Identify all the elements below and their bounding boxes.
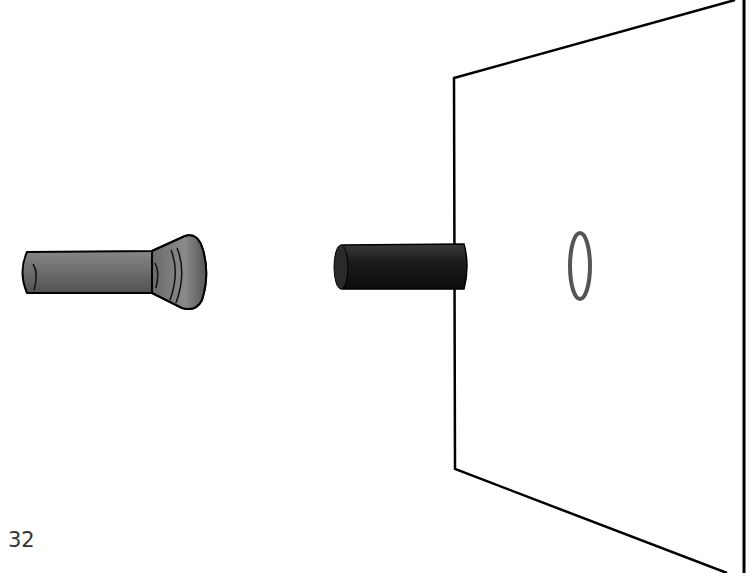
screen (454, 0, 744, 573)
flashlight (23, 235, 207, 309)
page-number: 32 (8, 528, 35, 552)
illustration-scene (0, 0, 746, 573)
cylinder (334, 244, 467, 289)
